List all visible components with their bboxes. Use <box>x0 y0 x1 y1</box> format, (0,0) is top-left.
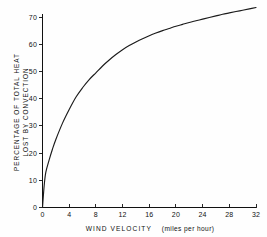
y-tick-label: 0 <box>33 204 37 211</box>
y-tick-label: 40 <box>29 95 37 102</box>
x-tick-label: 8 <box>94 211 98 218</box>
y-tick-label: 20 <box>29 150 37 157</box>
chart-figure: 010203040506070 048121620242832 WIND VEL… <box>0 0 267 237</box>
y-tick-label: 60 <box>29 41 37 48</box>
x-axis-caption: WIND VELOCITY (miles per hour) <box>86 225 215 233</box>
x-tick-label: 16 <box>145 211 153 218</box>
svg-text:WIND VELOCITY (miles: WIND VELOCITY (miles per hour) <box>86 225 215 233</box>
plot-background <box>0 0 267 237</box>
x-tick-label: 4 <box>67 211 71 218</box>
x-tick-label: 28 <box>225 211 233 218</box>
x-tick-label: 0 <box>40 211 44 218</box>
y-axis-caption: PERCENTAGE OF TOTAL HEAT LOST BY CONVECT… <box>13 53 29 171</box>
x-tick-label: 12 <box>118 211 126 218</box>
y-axis-label-line1: PERCENTAGE OF TOTAL HEAT <box>13 53 20 171</box>
y-axis-label-line2: LOST BY CONVECTION <box>22 67 29 156</box>
x-axis-label-main: WIND VELOCITY <box>86 225 152 232</box>
x-axis-label-unit: (miles per hour) <box>162 225 215 233</box>
y-tick-label: 70 <box>29 14 37 21</box>
x-tick-label: 20 <box>172 211 180 218</box>
x-tick-label: 32 <box>252 211 260 218</box>
x-tick-label: 24 <box>199 211 207 218</box>
y-tick-label: 10 <box>29 177 37 184</box>
convection-heat-loss-line-chart: 010203040506070 048121620242832 WIND VEL… <box>0 0 267 237</box>
y-tick-label: 30 <box>29 122 37 129</box>
y-tick-label: 50 <box>29 68 37 75</box>
